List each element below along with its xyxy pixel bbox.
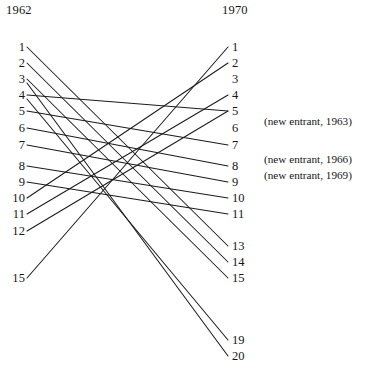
connector-line (27, 128, 228, 166)
annotation-new-entrant: (new entrant, 1969) (264, 170, 352, 181)
rank-label-left-12: 12 (3, 225, 25, 238)
rank-label-left-8: 8 (3, 160, 25, 173)
rank-label-left-2: 2 (3, 57, 25, 70)
rank-label-left-10: 10 (3, 192, 25, 205)
rank-label-right-4: 4 (232, 89, 256, 102)
rank-label-left-7: 7 (3, 139, 25, 152)
slopegraph-figure: 1962 1970 12345678910111215 123456789101… (0, 0, 374, 377)
connector-line (27, 111, 228, 231)
rank-label-left-9: 9 (3, 176, 25, 189)
rank-label-right-6: 6 (232, 122, 256, 135)
connector-line (27, 182, 228, 214)
rank-label-left-15: 15 (3, 272, 25, 285)
rank-label-right-11: 11 (232, 208, 256, 221)
connector-line (27, 83, 228, 356)
annotation-new-entrant: (new entrant, 1966) (264, 154, 352, 165)
rank-label-right-15: 15 (232, 272, 256, 285)
connector-line (27, 63, 228, 262)
rank-label-right-20: 20 (232, 350, 256, 363)
rank-label-right-10: 10 (232, 192, 256, 205)
rank-label-left-6: 6 (3, 122, 25, 135)
connector-line (27, 79, 228, 278)
rank-label-left-11: 11 (3, 208, 25, 221)
connector-line (27, 95, 228, 111)
column-header-right: 1970 (222, 3, 248, 18)
rank-label-left-1: 1 (3, 41, 25, 54)
rank-label-right-2: 2 (232, 57, 256, 70)
rank-label-right-1: 1 (232, 41, 256, 54)
connector-line (27, 95, 228, 214)
rank-label-right-13: 13 (232, 240, 256, 253)
connector-line (27, 145, 228, 182)
rank-label-right-7: 7 (232, 139, 256, 152)
annotation-new-entrant: (new entrant, 1963) (264, 116, 352, 127)
connector-line (27, 166, 228, 198)
connector-line (27, 63, 228, 198)
connector-line (27, 47, 228, 278)
rank-label-right-3: 3 (232, 73, 256, 86)
connector-line (27, 47, 228, 246)
rank-label-right-19: 19 (232, 334, 256, 347)
rank-label-right-9: 9 (232, 176, 256, 189)
rank-label-left-5: 5 (3, 105, 25, 118)
rank-label-left-3: 3 (3, 73, 25, 86)
rank-label-right-5: 5 (232, 105, 256, 118)
connector-line (27, 99, 228, 340)
column-header-left: 1962 (6, 3, 32, 18)
connector-lines (0, 0, 374, 377)
rank-label-right-14: 14 (232, 256, 256, 269)
connector-line (27, 111, 228, 145)
rank-label-right-8: 8 (232, 160, 256, 173)
rank-label-left-4: 4 (3, 89, 25, 102)
